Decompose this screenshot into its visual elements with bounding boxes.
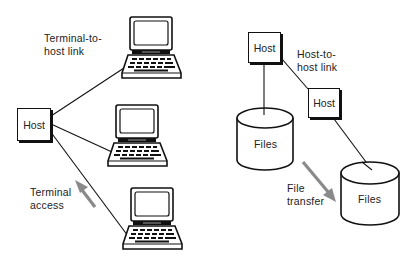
terminal-3-icon: [123, 188, 182, 249]
terminal-access-label: Terminal access: [30, 186, 71, 212]
files-a-label: Files: [254, 138, 277, 151]
host-box-b: Host: [308, 88, 340, 118]
terminal-2-icon: [108, 105, 167, 166]
host-to-host-link-label: Host-to- host link: [297, 48, 337, 74]
terminal-access-arrow-icon: [75, 180, 95, 207]
terminal-1-icon: [122, 17, 181, 78]
terminal-to-host-link-label: Terminal-to- host link: [44, 32, 102, 58]
host-box-a: Host: [248, 32, 281, 63]
host-a-label: Host: [254, 42, 276, 54]
host-b-label: Host: [313, 97, 335, 109]
host-label: Host: [23, 119, 45, 131]
file-transfer-label: File transfer: [287, 182, 324, 208]
files-b-label: Files: [358, 193, 381, 206]
host-box-left: Host: [17, 108, 51, 141]
